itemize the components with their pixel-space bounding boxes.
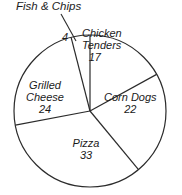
slice-label-pizza: Pizza 33 <box>62 137 110 161</box>
slice-label-pizza-name: Pizza <box>62 137 110 149</box>
slice-value-grilled-cheese: 24 <box>14 103 76 115</box>
slice-value-corn-dogs: 22 <box>104 103 157 115</box>
slice-value-fish-and-chips: 4 <box>62 31 68 43</box>
slice-label-corn-dogs-name: Corn Dogs <box>104 91 157 103</box>
slice-label-chicken-tenders-line2: Tenders <box>82 39 122 51</box>
slice-label-fish-and-chips: Fish & Chips <box>16 0 81 12</box>
slice-label-grilled-cheese: Grilled Cheese 24 <box>14 79 76 115</box>
slice-label-fish-and-chips-name: Fish & Chips <box>16 0 81 12</box>
slice-value-pizza: 33 <box>62 149 110 161</box>
slice-label-chicken-tenders-line1: Chicken <box>82 27 122 39</box>
pie-chart-figure: Fish & Chips 4 Chicken Tenders 17 Corn D… <box>0 0 182 195</box>
slice-value-chicken-tenders: 17 <box>82 51 122 63</box>
slice-label-chicken-tenders: Chicken Tenders 17 <box>82 27 122 63</box>
slice-value-fish-and-chips-number: 4 <box>62 31 68 43</box>
slice-label-grilled-cheese-line1: Grilled <box>14 79 76 91</box>
slice-label-grilled-cheese-line2: Cheese <box>14 91 76 103</box>
slice-label-corn-dogs: Corn Dogs 22 <box>104 91 157 115</box>
